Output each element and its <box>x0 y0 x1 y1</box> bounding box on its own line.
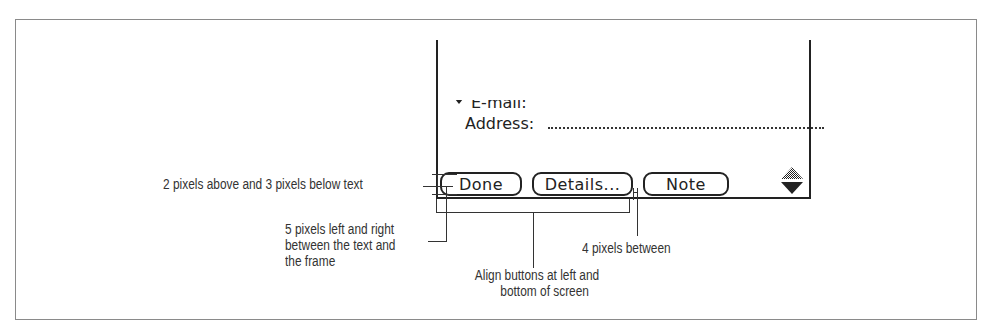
leader-line <box>428 241 447 242</box>
address-label: Address: <box>465 114 534 133</box>
address-input[interactable] <box>548 127 824 129</box>
done-button[interactable]: Done <box>440 172 522 196</box>
scroll-up-down-arrows-icon[interactable] <box>780 166 804 196</box>
leader-line <box>533 212 534 268</box>
dimension-line <box>633 188 634 200</box>
dimension-line-bottom <box>432 194 457 195</box>
address-field-row: Address: <box>465 113 534 133</box>
dimension-line <box>629 199 630 213</box>
annotation-spacing: 4 pixels between <box>582 240 671 256</box>
screen-right-edge <box>809 40 811 199</box>
screen-bottom-edge <box>436 197 811 199</box>
dimension-line <box>633 192 638 193</box>
leader-line <box>637 188 638 236</box>
annotation-vertical-padding: 2 pixels above and 3 pixels below text <box>163 176 363 192</box>
note-button[interactable]: Note <box>643 172 729 196</box>
leader-line <box>423 186 453 187</box>
annotation-horizontal-padding: 5 pixels left and right between the text… <box>285 221 396 269</box>
dimension-line <box>436 199 437 213</box>
details-button[interactable]: Details... <box>532 172 633 196</box>
annotation-alignment: Align buttons at left and bottom of scre… <box>452 267 622 299</box>
dimension-line-vertical <box>437 174 438 195</box>
leader-line <box>446 186 447 242</box>
dimension-line-top <box>432 174 457 175</box>
